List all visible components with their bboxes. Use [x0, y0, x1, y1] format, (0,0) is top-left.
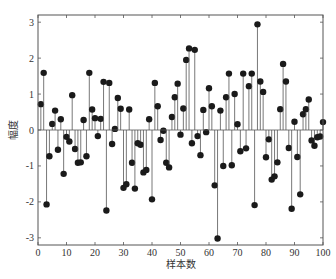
- marker-dot: [78, 159, 84, 165]
- stem-point: [234, 121, 240, 130]
- stem-point: [243, 130, 249, 152]
- marker-dot: [200, 107, 206, 113]
- marker-dot: [166, 164, 172, 170]
- stem-point: [212, 130, 218, 189]
- marker-dot: [288, 206, 294, 212]
- stem-point: [277, 106, 283, 130]
- stem-point: [78, 130, 84, 166]
- y-tick-label: 2: [29, 53, 34, 64]
- x-tick-label: 0: [36, 247, 41, 258]
- marker-dot: [157, 137, 163, 143]
- marker-dot: [251, 202, 257, 208]
- stem-point: [229, 130, 235, 168]
- marker-dot: [194, 133, 200, 139]
- stem-point: [72, 130, 78, 152]
- marker-dot: [115, 95, 121, 101]
- x-axis-label: 样本数: [166, 258, 196, 270]
- stem-point: [155, 103, 161, 130]
- stem-point: [49, 121, 55, 130]
- marker-dot: [246, 83, 252, 89]
- stem-point: [129, 130, 135, 166]
- stem-point: [286, 130, 292, 151]
- marker-dot: [306, 96, 312, 102]
- stem-point: [240, 70, 246, 130]
- marker-dot: [271, 173, 277, 179]
- marker-dot: [169, 114, 175, 120]
- marker-dot: [206, 85, 212, 91]
- marker-dot: [72, 146, 78, 152]
- stem-point: [95, 130, 101, 139]
- stem-point: [86, 70, 92, 130]
- marker-dot: [172, 94, 178, 100]
- stem-point: [200, 107, 206, 130]
- marker-dot: [226, 70, 232, 76]
- stem-point: [209, 103, 215, 130]
- marker-dot: [280, 61, 286, 67]
- marker-dot: [160, 128, 166, 134]
- marker-dot: [129, 160, 135, 166]
- marker-dot: [146, 116, 152, 122]
- marker-dot: [58, 116, 64, 122]
- x-tick-label: 80: [261, 247, 271, 258]
- marker-dot: [80, 117, 86, 123]
- marker-dot: [126, 106, 132, 112]
- marker-dot: [189, 140, 195, 146]
- marker-dot: [212, 182, 218, 188]
- marker-dot: [83, 153, 89, 159]
- y-tick-label: -1: [26, 160, 34, 171]
- marker-dot: [137, 142, 143, 148]
- stem-point: [58, 116, 64, 130]
- x-tick-label: 50: [176, 247, 186, 258]
- stem-point: [123, 130, 129, 187]
- marker-dot: [186, 45, 192, 51]
- stem-point: [260, 89, 266, 130]
- marker-dot: [277, 106, 283, 112]
- stem-point: [249, 70, 255, 130]
- stem-point: [303, 106, 309, 130]
- stem-point: [100, 79, 106, 130]
- stem-point: [183, 57, 189, 130]
- marker-dot: [60, 171, 66, 177]
- y-tick-label: -2: [26, 196, 34, 207]
- stem-point: [294, 130, 300, 160]
- x-tick-label: 60: [204, 247, 214, 258]
- marker-dot: [155, 103, 161, 109]
- stem-point: [280, 61, 286, 130]
- marker-dot: [257, 78, 263, 84]
- stem-point: [163, 130, 169, 166]
- marker-dot: [283, 78, 289, 84]
- stem-point: [220, 130, 226, 169]
- stem-point: [41, 70, 47, 130]
- marker-dot: [308, 137, 314, 143]
- marker-dot: [291, 119, 297, 125]
- marker-dot: [98, 116, 104, 122]
- stem-point: [103, 130, 109, 214]
- stem-point: [254, 21, 260, 130]
- marker-dot: [143, 167, 149, 173]
- stem-point: [288, 130, 294, 212]
- stem-point: [306, 96, 312, 130]
- marker-dot: [274, 159, 280, 165]
- x-tick-label: 30: [119, 247, 129, 258]
- marker-dot: [180, 105, 186, 111]
- stem-point: [83, 130, 89, 159]
- stem-point: [189, 130, 195, 146]
- marker-dot: [209, 103, 215, 109]
- stem-point: [174, 80, 180, 130]
- marker-dot: [286, 145, 292, 151]
- marker-dot: [89, 106, 95, 112]
- stem-point: [271, 130, 277, 180]
- marker-dot: [66, 138, 72, 144]
- marker-dot: [183, 57, 189, 63]
- stem-point: [283, 78, 289, 130]
- marker-dot: [174, 80, 180, 86]
- marker-dot: [297, 191, 303, 197]
- marker-dot: [92, 115, 98, 121]
- stem-point: [317, 130, 323, 140]
- marker-dot: [95, 133, 101, 139]
- marker-dot: [317, 133, 323, 139]
- marker-dot: [263, 154, 269, 160]
- marker-dot: [311, 143, 317, 149]
- marker-dot: [152, 80, 158, 86]
- marker-dot: [217, 107, 223, 113]
